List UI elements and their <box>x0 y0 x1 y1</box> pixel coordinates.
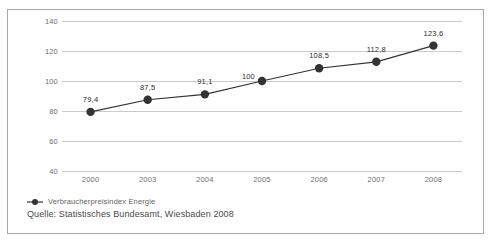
data-point-marker <box>201 90 209 98</box>
x-axis-tick-label: 2000 <box>82 175 100 184</box>
x-axis-tick-label: 2004 <box>196 175 214 184</box>
data-point-marker <box>315 64 323 72</box>
y-axis-tick-label: 120 <box>45 47 58 56</box>
x-axis-tick-label: 2003 <box>139 175 157 184</box>
y-axis-tick-label: 140 <box>45 17 58 26</box>
x-axis-tick-labels: 2000200320042005200620072008 <box>62 175 462 187</box>
data-point-label: 87,5 <box>140 83 155 92</box>
data-point-marker <box>429 41 437 49</box>
source-note: Quelle: Statistisches Bundesamt, Wiesbad… <box>27 209 234 219</box>
data-point-label: 108,5 <box>309 51 329 60</box>
x-axis-tick-label: 2006 <box>310 175 328 184</box>
data-point-marker <box>372 58 380 66</box>
data-point-label: 100 <box>242 72 255 81</box>
data-point-marker <box>144 96 152 104</box>
data-point-marker <box>258 77 266 85</box>
x-axis-tick-label: 2007 <box>368 175 386 184</box>
data-point-marker <box>86 108 94 116</box>
y-axis-tick-label: 80 <box>49 107 58 116</box>
data-point-label: 79,4 <box>83 95 98 104</box>
gridline <box>62 171 462 172</box>
data-point-label: 123,6 <box>424 29 444 38</box>
plot-area: 79,487,591,1100108,5112,8123,6 <box>62 21 462 171</box>
x-axis-tick-label: 2008 <box>425 175 443 184</box>
legend-line-marker-icon <box>27 192 43 210</box>
data-point-label: 91,1 <box>197 77 212 86</box>
y-axis-tick-label: 60 <box>49 137 58 146</box>
chart-figure: 140120100806040 79,487,591,1100108,5112,… <box>0 0 491 247</box>
x-axis-tick-label: 2005 <box>253 175 271 184</box>
y-axis-tick-label: 100 <box>45 77 58 86</box>
data-point-label: 112,8 <box>367 45 386 54</box>
chart-legend: Verbraucherpreisindex Energie <box>27 192 155 210</box>
series-line-chart <box>62 21 462 171</box>
y-axis-tick-labels: 140120100806040 <box>30 21 58 171</box>
y-axis-tick-label: 40 <box>49 167 58 176</box>
legend-label: Verbraucherpreisindex Energie <box>48 197 155 206</box>
